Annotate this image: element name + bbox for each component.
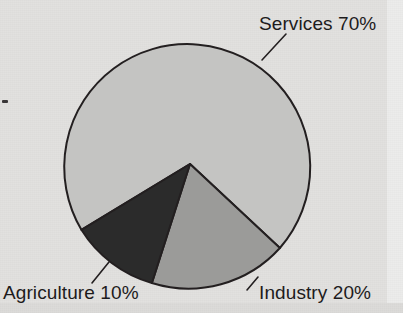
- pie-chart-svg: Services 70% Industry 20% Agriculture 10…: [0, 0, 403, 330]
- leader-line-services: [262, 34, 286, 60]
- pie-chart-figure: Services 70% Industry 20% Agriculture 10…: [0, 0, 403, 330]
- pie-label-agriculture: Agriculture 10%: [3, 282, 139, 303]
- pie-label-industry: Industry 20%: [259, 282, 371, 303]
- pie-label-services: Services 70%: [259, 13, 376, 34]
- leader-line-agriculture: [92, 262, 109, 283]
- leader-line-industry: [247, 277, 258, 290]
